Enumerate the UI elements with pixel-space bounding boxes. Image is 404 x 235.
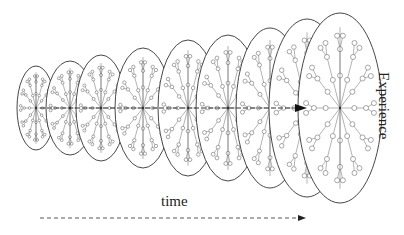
experience-ellipse [298, 13, 382, 203]
time-label: time [161, 193, 188, 210]
experience-label: Experience [375, 72, 392, 139]
experience-over-time-diagram [0, 0, 404, 235]
